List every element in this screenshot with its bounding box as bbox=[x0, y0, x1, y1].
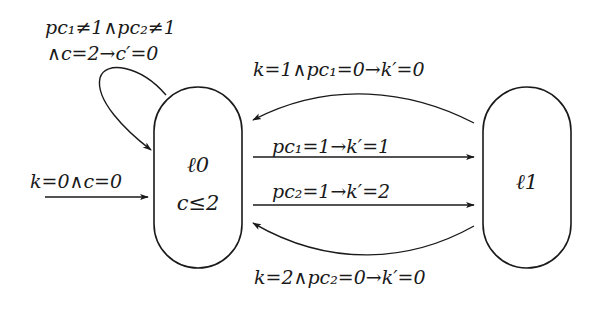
transition-label-l1-to-l0-top: k=1∧pc₁=0→k′=0 bbox=[253, 60, 425, 79]
self-loop-label-line1: pc₁≠1∧pc₂≠1 bbox=[45, 18, 176, 37]
transition-label-l0-to-l1-pc1: pc₁=1→k′=1 bbox=[272, 137, 390, 156]
self-loop-label-line2: ∧c=2→c′=0 bbox=[47, 44, 158, 63]
state-l0-shape[interactable] bbox=[154, 87, 242, 268]
transition-label-l1-to-l0-bottom: k=2∧pc₂=0→k′=0 bbox=[254, 268, 426, 287]
self-loop-arrow bbox=[99, 68, 166, 150]
state-l0-invariant: c≤2 bbox=[154, 193, 242, 214]
state-l0-name: ℓ0 bbox=[154, 155, 242, 176]
transition-label-l0-to-l1-pc2: pc₂=1→k′=2 bbox=[272, 182, 390, 201]
initial-label: k=0∧c=0 bbox=[30, 172, 122, 191]
arrow-l1-to-l0-bottom bbox=[253, 223, 474, 255]
state-l1-name: ℓ1 bbox=[483, 172, 571, 193]
arrow-l1-to-l0-top bbox=[253, 94, 474, 123]
